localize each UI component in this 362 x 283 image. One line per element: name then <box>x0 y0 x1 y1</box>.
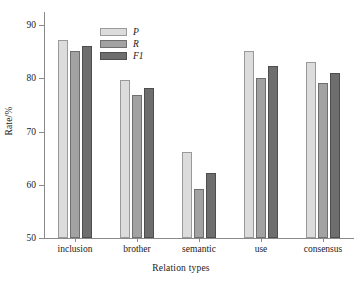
bar-consensus-P <box>306 62 317 238</box>
y-tick-label: 90 <box>27 19 37 31</box>
x-tick-label-brother: brother <box>123 244 150 254</box>
bar-consensus-F1 <box>330 73 341 238</box>
x-tick <box>75 238 76 242</box>
legend-label-p: P <box>133 27 139 37</box>
bar-semantic-R <box>194 189 205 238</box>
y-tick-label: 80 <box>27 72 37 84</box>
y-tick: 70 <box>39 132 44 133</box>
bar-inclusion-R <box>70 51 81 238</box>
bar-brother-R <box>132 95 143 238</box>
x-tick <box>137 238 138 242</box>
bar-chart: Rate/% 5060708090 inclusionbrothersemant… <box>0 0 362 283</box>
y-tick-label: 50 <box>27 232 37 244</box>
y-tick: 80 <box>39 78 44 79</box>
y-tick-label: 60 <box>27 179 37 191</box>
bar-use-F1 <box>268 66 279 238</box>
bar-brother-P <box>120 80 131 238</box>
plot-area: 5060708090 inclusionbrothersemanticuseco… <box>44 12 354 238</box>
x-tick-label-semantic: semantic <box>182 244 216 254</box>
x-tick <box>261 238 262 242</box>
legend-swatch-f1 <box>100 52 127 60</box>
legend-item-p: P <box>100 26 144 37</box>
x-axis-title: Relation types <box>0 263 362 273</box>
y-tick: 90 <box>39 25 44 26</box>
legend-item-f1: F1 <box>100 50 144 61</box>
y-axis-title: Rate/% <box>4 91 14 151</box>
bar-use-R <box>256 78 267 238</box>
bar-consensus-R <box>318 83 329 238</box>
x-tick <box>323 238 324 242</box>
y-tick: 60 <box>39 185 44 186</box>
y-tick-label: 70 <box>27 126 37 138</box>
x-tick <box>199 238 200 242</box>
bar-inclusion-P <box>58 40 69 238</box>
legend-label-f1: F1 <box>133 51 144 61</box>
y-axis-line <box>44 12 45 238</box>
x-tick-label-consensus: consensus <box>304 244 343 254</box>
bar-inclusion-F1 <box>82 46 93 238</box>
bar-use-P <box>244 51 255 238</box>
bar-brother-F1 <box>144 88 155 238</box>
bar-semantic-F1 <box>206 173 217 238</box>
x-tick-label-inclusion: inclusion <box>58 244 93 254</box>
legend-item-r: R <box>100 38 144 49</box>
legend-swatch-r <box>100 40 127 48</box>
chart-legend: P R F1 <box>100 26 144 62</box>
y-tick: 50 <box>39 238 44 239</box>
legend-label-r: R <box>133 39 139 49</box>
legend-swatch-p <box>100 28 127 36</box>
x-tick-label-use: use <box>255 244 268 254</box>
bar-semantic-P <box>182 152 193 238</box>
